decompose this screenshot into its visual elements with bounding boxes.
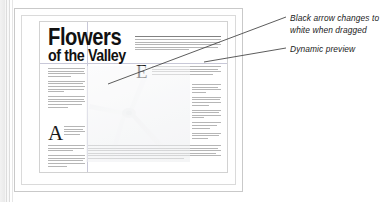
- masthead-line-2: of the Valley: [48, 49, 139, 64]
- document-page[interactable]: Flowers of the Valley: [39, 21, 228, 173]
- paragraph: [192, 97, 221, 106]
- chrome-rule-2: [9, 0, 10, 202]
- paragraph: [48, 96, 85, 107]
- chrome-rule-3: [12, 0, 13, 202]
- paragraph: [48, 155, 85, 166]
- chrome-rule-1: [6, 0, 7, 202]
- dropcap-left: A: [48, 125, 63, 142]
- pasteboard-frame: Flowers of the Valley: [14, 8, 243, 192]
- dropcap-right: E: [136, 63, 148, 80]
- text-column-right-side: [192, 84, 221, 143]
- paragraph: [48, 145, 85, 151]
- text-column-left-lower: [48, 145, 85, 171]
- text-column-left-dropcap-wrap: [64, 126, 85, 136]
- masthead-line-1: Flowers: [48, 27, 139, 48]
- text-column-left: [48, 68, 85, 112]
- text-column-intro: [135, 36, 221, 52]
- window-chrome-strip: [0, 0, 10, 202]
- paragraph: [192, 84, 221, 93]
- paragraph: [192, 122, 221, 128]
- text-column-bottom: [88, 145, 221, 161]
- paragraph: [48, 81, 85, 92]
- screenshot-root: Flowers of the Valley: [0, 0, 383, 202]
- paragraph: [192, 133, 221, 139]
- text-column-right-top: [152, 66, 221, 76]
- annotation-black-arrow-label: Black arrow changes to white when dragge…: [290, 13, 382, 36]
- annotation-dynamic-preview-label: Dynamic preview: [290, 44, 382, 56]
- paragraph: [192, 110, 221, 119]
- paragraph: [48, 68, 85, 77]
